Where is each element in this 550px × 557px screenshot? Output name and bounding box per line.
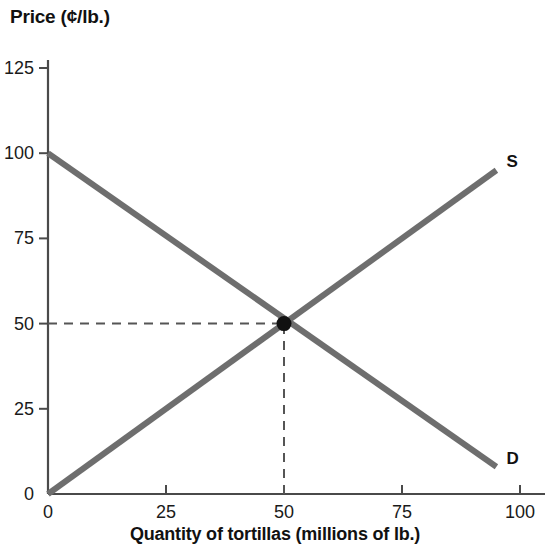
y-tick-label: 0 bbox=[0, 484, 34, 505]
y-tick-label: 125 bbox=[0, 58, 34, 79]
x-tick-label: 100 bbox=[505, 502, 535, 523]
y-tick-label: 75 bbox=[0, 228, 34, 249]
y-tick-label: 100 bbox=[0, 143, 34, 164]
demand-curve-label: D bbox=[506, 449, 518, 469]
x-axis-ticks bbox=[166, 485, 520, 494]
x-tick-label: 50 bbox=[274, 502, 294, 523]
plot-area bbox=[0, 0, 550, 557]
x-axis-title: Quantity of tortillas (millions of lb.) bbox=[0, 524, 550, 545]
y-tick-label: 25 bbox=[0, 398, 34, 419]
demand-curve bbox=[48, 153, 496, 467]
supply-curve-label: S bbox=[506, 152, 517, 172]
x-tick-label: 25 bbox=[156, 502, 176, 523]
supply-demand-chart: Price (¢/lb.) 0255075100125 0255075100 S… bbox=[0, 0, 550, 557]
y-tick-label: 50 bbox=[0, 313, 34, 334]
y-axis-ticks bbox=[39, 68, 48, 409]
x-tick-label: 75 bbox=[392, 502, 412, 523]
supply-curve bbox=[48, 170, 496, 494]
x-tick-label: 0 bbox=[43, 502, 53, 523]
equilibrium-point bbox=[277, 316, 292, 331]
